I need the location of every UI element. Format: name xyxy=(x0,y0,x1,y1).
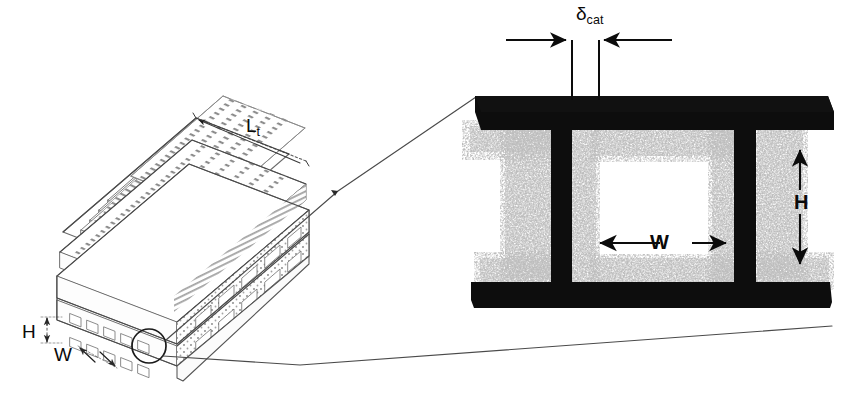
label-height-detail: H xyxy=(794,192,808,212)
label-width-detail: W xyxy=(650,232,669,252)
substrate-right-wall xyxy=(734,126,756,286)
catalyst-washcoat-layer xyxy=(462,120,834,292)
label-catalyst-thickness: δcat xyxy=(576,4,604,26)
detail-cross-section-drawing xyxy=(0,0,859,394)
label-total-length: Lt xyxy=(246,116,260,138)
label-height-isometric: H xyxy=(22,322,36,341)
figure-canvas: Lt H W δcat W H xyxy=(0,0,859,394)
dimension-delta-cat xyxy=(506,40,672,100)
substrate-bottom-slab xyxy=(471,282,832,308)
label-width-isometric: W xyxy=(54,345,72,364)
substrate-left-wall xyxy=(551,126,572,286)
